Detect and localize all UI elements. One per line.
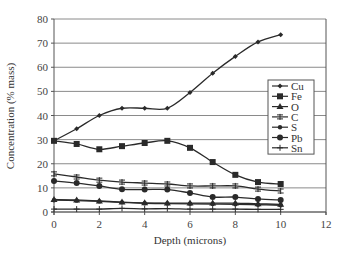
x-tick-label: 8 <box>233 218 239 230</box>
x-tick-label: 10 <box>275 218 287 230</box>
legend-label: Sn <box>291 142 303 154</box>
y-tick-labels: 01020304050607080 <box>37 13 54 218</box>
x-tick-label: 12 <box>321 218 332 230</box>
y-tick-label: 20 <box>37 158 49 170</box>
series-fe <box>51 138 284 187</box>
y-tick-label: 10 <box>37 182 49 194</box>
series-cu <box>52 32 284 143</box>
y-tick-label: 0 <box>43 206 49 218</box>
y-tick-label: 30 <box>37 134 49 146</box>
y-axis-label: Concentration (% mass) <box>4 63 17 170</box>
series-sn <box>51 205 284 212</box>
legend: CuFeOCSPbSn <box>268 80 314 154</box>
data-series <box>51 32 285 212</box>
y-tick-label: 60 <box>37 61 49 73</box>
x-axis-label: Depth (microns) <box>154 234 227 247</box>
x-tick-labels: 024681012 <box>51 212 331 230</box>
x-tick-label: 2 <box>97 218 103 230</box>
y-tick-label: 80 <box>37 13 49 25</box>
y-tick-label: 40 <box>37 110 49 122</box>
line-chart: 01020304050607080 024681012 Concentratio… <box>0 0 349 256</box>
y-tick-label: 50 <box>37 85 49 97</box>
y-tick-label: 70 <box>37 37 49 49</box>
x-tick-label: 4 <box>142 218 148 230</box>
x-tick-label: 6 <box>187 218 193 230</box>
x-tick-label: 0 <box>51 218 57 230</box>
